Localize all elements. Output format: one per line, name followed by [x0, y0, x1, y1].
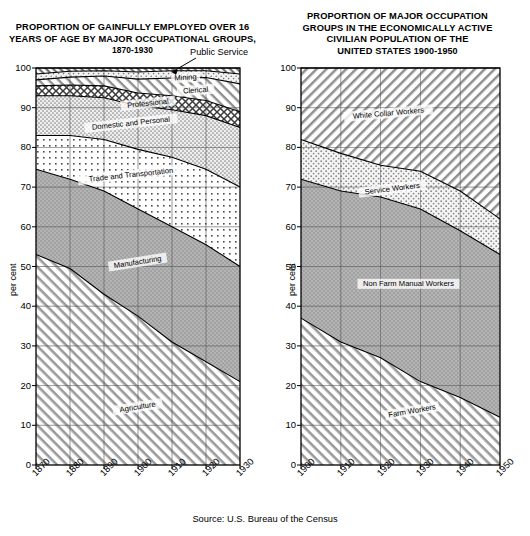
y-tick-label: 60: [270, 221, 296, 232]
y-tick-label: 40: [5, 300, 31, 311]
y-tick-label: 40: [270, 300, 296, 311]
chart-page: PROPORTION OF GAINFULLY EMPLOYED OVER 16…: [0, 0, 530, 536]
y-tick-label: 100: [270, 62, 296, 73]
y-tick-label: 20: [270, 380, 296, 391]
y-tick-label: 0: [5, 459, 31, 470]
y-tick-label: 10: [5, 419, 31, 430]
public-service-callout-label: Public Service: [190, 47, 248, 57]
y-tick-label: 100: [5, 62, 31, 73]
y-tick-label: 30: [270, 340, 296, 351]
source-note: Source: U.S. Bureau of the Census: [0, 514, 530, 524]
y-tick-label: 70: [270, 181, 296, 192]
left-chart-svg: AgricultureManufacturingTrade and Transp…: [0, 0, 265, 536]
y-tick-label: 90: [270, 102, 296, 113]
right-chart-svg: Farm WorkersNon Farm Manual WorkersServi…: [265, 0, 530, 536]
y-tick-label: 50: [270, 261, 296, 272]
y-tick-label: 0: [270, 459, 296, 470]
band-label-mining: Mining: [174, 72, 197, 82]
right-chart-panel: PROPORTION OF MAJOR OCCUPATION GROUPS IN…: [265, 0, 530, 536]
left-chart-panel: PROPORTION OF GAINFULLY EMPLOYED OVER 16…: [0, 0, 265, 536]
band-label-clerical: Clerical: [183, 85, 209, 96]
band-label-non-farm-manual-workers: Non Farm Manual Workers: [363, 279, 454, 288]
y-tick-label: 80: [270, 141, 296, 152]
y-tick-label: 20: [5, 380, 31, 391]
y-tick-label: 60: [5, 221, 31, 232]
y-tick-label: 30: [5, 340, 31, 351]
y-tick-label: 50: [5, 261, 31, 272]
y-tick-label: 10: [270, 419, 296, 430]
y-tick-label: 80: [5, 141, 31, 152]
y-tick-label: 90: [5, 102, 31, 113]
y-tick-label: 70: [5, 181, 31, 192]
